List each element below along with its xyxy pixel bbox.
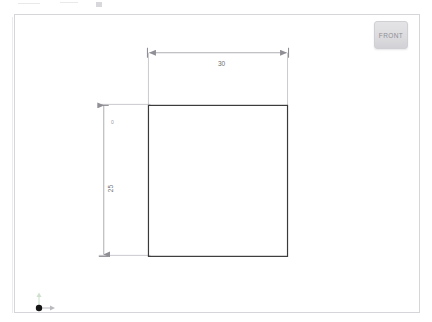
origin-axis-indicator[interactable] bbox=[33, 289, 67, 315]
view-cube-front-face[interactable]: FRONT bbox=[374, 21, 408, 49]
height-dimension-label[interactable]: 25 bbox=[107, 183, 114, 194]
capture-artifact-2 bbox=[60, 2, 78, 3]
width-dimension-line[interactable] bbox=[147, 48, 288, 58]
capture-artifact-3 bbox=[96, 2, 102, 7]
origin-axis-x-arrow-icon bbox=[50, 306, 55, 311]
view-cube-label: FRONT bbox=[379, 32, 403, 39]
width-dimension-label[interactable]: 30 bbox=[216, 60, 227, 67]
capture-artifact-1 bbox=[18, 3, 40, 4]
sketch-viewport[interactable]: 30 25 0 FRONT bbox=[14, 14, 420, 313]
height-dimension-line[interactable] bbox=[99, 105, 109, 256]
dimension-extension-lines bbox=[99, 53, 288, 256]
origin-axis-y-arrow-icon bbox=[37, 293, 42, 298]
origin-point-icon[interactable] bbox=[36, 305, 42, 311]
sketch-rectangle[interactable] bbox=[148, 105, 287, 256]
cad-application-window: 30 25 0 FRONT bbox=[0, 0, 432, 322]
height-dimension-endpoint-tick-label: 0 bbox=[109, 119, 116, 125]
